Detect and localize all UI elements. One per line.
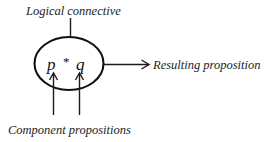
label-logical-connective: Logical connective (25, 4, 121, 18)
label-component-propositions: Component propositions (8, 123, 131, 137)
operand-arrow-right (76, 73, 84, 115)
formula-left-operand: p (46, 55, 56, 74)
operand-arrow-left (50, 73, 58, 115)
formula-right-operand: q (76, 55, 85, 74)
label-resulting-proposition: Resulting proposition (152, 58, 261, 72)
diagram-canvas: Logical connective p * q (0, 0, 269, 142)
formula-operator: * (63, 54, 70, 69)
result-arrow (103, 60, 149, 69)
diagram-svg: Logical connective p * q (0, 0, 269, 142)
